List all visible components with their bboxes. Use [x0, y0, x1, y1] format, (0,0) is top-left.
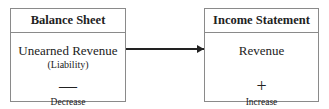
unearned-revenue-label: Unearned Revenue [11, 44, 125, 58]
arrowhead [197, 45, 204, 53]
revenue-label: Revenue [205, 44, 318, 58]
balance-sheet-body: Unearned Revenue (Liability) — Decrease [11, 44, 125, 108]
arrow-right-icon [126, 48, 204, 50]
minus-icon: — [11, 77, 125, 95]
income-statement-box: Income Statement Revenue + Increase [204, 8, 319, 102]
liability-label: (Liability) [11, 59, 125, 70]
income-statement-body: Revenue + Increase [205, 44, 318, 108]
increase-label: Increase [205, 97, 318, 108]
balance-sheet-box: Balance Sheet Unearned Revenue (Liabilit… [10, 8, 126, 102]
balance-sheet-header: Balance Sheet [11, 9, 125, 33]
decrease-label: Decrease [11, 97, 125, 108]
income-statement-header: Income Statement [205, 9, 318, 33]
plus-icon: + [205, 77, 318, 95]
